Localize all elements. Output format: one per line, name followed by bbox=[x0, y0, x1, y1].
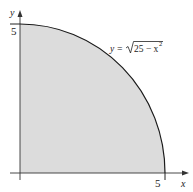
quarter-circle-diagram: y 5 5 x y = 25 − x 2 bbox=[0, 0, 193, 192]
x-tick-label: 5 bbox=[155, 177, 161, 189]
y-axis-label: y bbox=[9, 7, 15, 18]
curve-equation-label: y = 25 − x 2 bbox=[109, 40, 163, 54]
x-axis-arrow-icon bbox=[182, 171, 189, 176]
x-axis-label: x bbox=[180, 178, 186, 189]
y-axis-arrow-icon bbox=[18, 10, 23, 17]
equation-prefix: y = bbox=[109, 44, 123, 54]
y-tick-label: 5 bbox=[11, 25, 17, 37]
equation-exponent: 2 bbox=[159, 40, 162, 47]
equation-radicand: 25 − x bbox=[134, 44, 159, 54]
